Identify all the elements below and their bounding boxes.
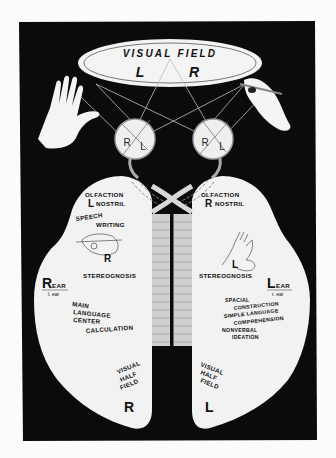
right-function-0: SPACIAL (225, 297, 250, 303)
left-ear-sub: l. ear (48, 291, 59, 297)
right-ear-side: L (267, 275, 276, 291)
left-field-side: R (124, 399, 134, 415)
left-ear-label: EAR (52, 282, 66, 289)
right-stereognosis-label: STEREOGNOSIS (199, 272, 252, 279)
left-hand-side: R (104, 253, 112, 264)
right-hand-side: L (232, 259, 238, 270)
visual-field-right-label: R (189, 64, 200, 80)
writing-label: WRITING (96, 221, 125, 228)
right-field-side: L (205, 399, 214, 415)
right-olfaction-side: R (205, 198, 213, 209)
split-brain-diagram: VISUAL FIELD L R R L R L (0, 0, 336, 458)
left-ear-side: R (42, 275, 52, 291)
right-function-4: NONVERBAL (222, 327, 258, 333)
corpus-callosum (152, 214, 192, 436)
left-eye-l-label: L (140, 141, 146, 152)
right-eye-r-label: R (201, 137, 208, 148)
left-nostril-label: NOSTRIL (96, 200, 125, 207)
visual-field-left-label: L (136, 64, 145, 80)
visual-field: VISUAL FIELD L R (78, 39, 262, 87)
visual-field-title: VISUAL FIELD (123, 48, 218, 59)
left-olfaction-side: L (88, 198, 94, 209)
right-olfaction-label: OLFACTION (201, 191, 240, 198)
right-nostril-label: NOSTRIL (215, 200, 244, 207)
left-olfaction-label: OLFACTION (85, 191, 124, 198)
right-ear-label: EAR (276, 282, 290, 289)
right-eye-l-label: L (219, 141, 225, 152)
right-function-5: IDEATION (232, 334, 259, 340)
right-ear-sub: r. ear (272, 291, 284, 297)
left-eye-r-label: R (123, 137, 130, 148)
left-stereognosis-label: STEREOGNOSIS (83, 272, 136, 279)
